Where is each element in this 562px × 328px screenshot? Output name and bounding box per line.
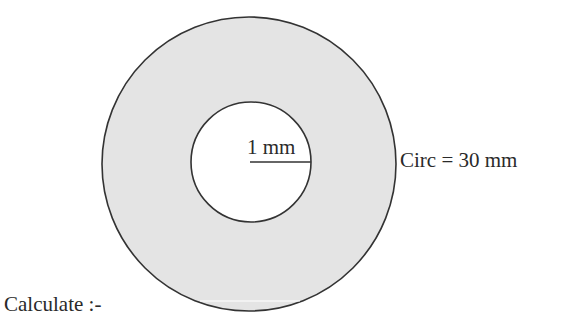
outer-circumference-label: Circ = 30 mm	[400, 150, 517, 171]
calculate-prompt: Calculate :-	[4, 294, 101, 315]
inner-radius-label: 1 mm	[247, 137, 295, 158]
